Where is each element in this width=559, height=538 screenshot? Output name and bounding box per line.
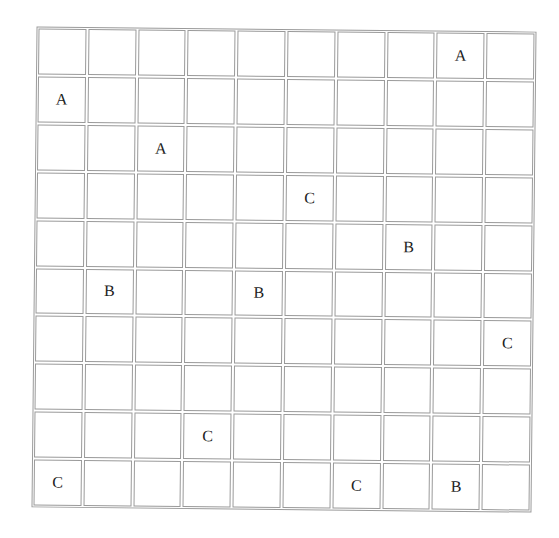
grid-cell xyxy=(386,80,434,126)
grid-cell: C xyxy=(332,463,380,509)
grid-cell xyxy=(185,269,233,315)
grid-cell: A xyxy=(38,76,86,122)
grid-cell xyxy=(337,32,385,78)
grid-cell xyxy=(36,268,84,314)
grid-cell xyxy=(183,461,231,507)
grid-cell xyxy=(84,412,132,458)
grid-cell xyxy=(135,269,183,315)
grid-cell xyxy=(186,126,234,172)
grid-cell xyxy=(486,33,534,79)
grid-cell xyxy=(133,461,181,507)
grid-cell xyxy=(84,364,132,410)
grid-cell xyxy=(283,414,331,460)
grid-cell xyxy=(284,271,332,317)
grid-cell xyxy=(87,77,135,123)
grid-cell xyxy=(285,223,333,269)
grid-cell xyxy=(83,460,131,506)
grid-cell xyxy=(284,318,332,364)
grid-cell xyxy=(34,412,82,458)
grid-cell xyxy=(333,415,381,461)
grid-cell xyxy=(434,224,482,270)
grid-cell xyxy=(482,416,530,462)
grid-cell: C xyxy=(285,175,333,221)
grid-cell xyxy=(485,129,533,175)
grid-cell xyxy=(184,365,232,411)
grid-cell xyxy=(432,416,480,462)
grid-cell xyxy=(433,368,481,414)
grid-cell xyxy=(137,77,185,123)
grid-cell xyxy=(282,462,330,508)
grid-cell: C xyxy=(34,459,82,505)
grid-cell xyxy=(86,221,134,267)
letter-grid: AAACBBBCCCCB xyxy=(31,26,536,512)
grid-cell xyxy=(336,79,384,125)
grid-cell xyxy=(334,319,382,365)
grid-cell xyxy=(37,172,85,218)
grid-cell xyxy=(384,272,432,318)
grid-cell xyxy=(35,364,83,410)
grid-cell xyxy=(88,29,136,75)
grid-cell xyxy=(286,127,334,173)
grid-cell: C xyxy=(483,320,531,366)
grid-cell xyxy=(186,174,234,220)
grid-cell xyxy=(436,80,484,126)
grid-cell xyxy=(136,221,184,267)
grid-cell xyxy=(234,318,282,364)
grid-cell xyxy=(184,317,232,363)
grid-cell xyxy=(483,368,531,414)
grid-cell xyxy=(333,367,381,413)
grid-cell: A xyxy=(137,125,185,171)
grid-cell xyxy=(286,79,334,125)
grid-cell xyxy=(237,31,285,77)
grid-cell xyxy=(335,223,383,269)
grid-cell xyxy=(485,177,533,223)
grid-cell xyxy=(86,173,134,219)
grid-cell xyxy=(336,127,384,173)
grid-cell xyxy=(36,220,84,266)
grid-cell xyxy=(386,128,434,174)
grid-cell: B xyxy=(235,270,283,316)
grid-cell xyxy=(387,32,435,78)
grid-cell xyxy=(237,78,285,124)
grid-cell: B xyxy=(85,268,133,314)
grid-cell xyxy=(87,125,135,171)
grid-cell xyxy=(236,174,284,220)
grid-cell: B xyxy=(385,224,433,270)
grid-cell xyxy=(38,28,86,74)
grid-cell: B xyxy=(432,464,480,510)
grid-cell xyxy=(134,365,182,411)
grid-cell xyxy=(233,414,281,460)
grid-cell xyxy=(236,126,284,172)
grid-cell xyxy=(35,316,83,362)
grid-cell xyxy=(134,413,182,459)
grid-cell xyxy=(484,225,532,271)
grid-cell xyxy=(382,463,430,509)
grid-cell xyxy=(385,176,433,222)
grid-cell xyxy=(334,271,382,317)
grid-cell xyxy=(486,81,534,127)
grid-cell xyxy=(135,317,183,363)
grid-cell: A xyxy=(436,33,484,79)
grid-cell xyxy=(433,320,481,366)
grid-cell xyxy=(335,175,383,221)
grid-cell xyxy=(435,176,483,222)
grid-cell xyxy=(482,464,530,510)
grid-cell xyxy=(283,366,331,412)
grid-cell xyxy=(37,124,85,170)
grid-cell xyxy=(383,415,431,461)
grid-cell xyxy=(136,173,184,219)
grid-cell xyxy=(185,222,233,268)
grid-cell xyxy=(233,462,281,508)
grid-cell xyxy=(187,30,235,76)
grid-cell xyxy=(434,272,482,318)
grid-cell xyxy=(435,128,483,174)
grid-cell xyxy=(287,31,335,77)
grid-cell: C xyxy=(183,413,231,459)
grid-cell xyxy=(384,319,432,365)
grid-cell xyxy=(383,367,431,413)
grid-cell xyxy=(484,273,532,319)
grid-cell xyxy=(187,78,235,124)
grid-cell xyxy=(138,29,186,75)
grid-cell xyxy=(85,316,133,362)
grid-cell xyxy=(235,222,283,268)
